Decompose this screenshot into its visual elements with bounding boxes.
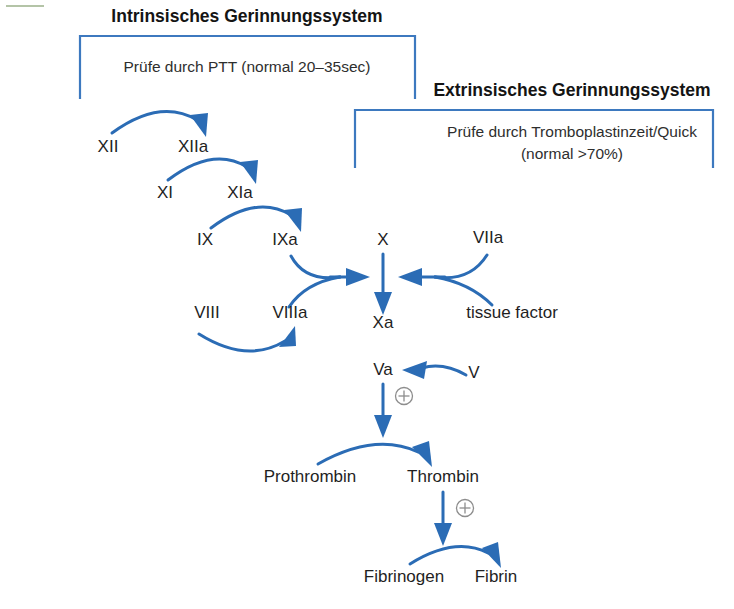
node-label-f9a: IXa — [272, 230, 298, 249]
arrow-fibrinogen-to-fibrin — [410, 542, 501, 568]
plus-modifier-thrombin — [457, 500, 474, 517]
node-label-f12: XII — [98, 137, 119, 156]
node-label-f5a: Va — [373, 360, 393, 379]
arrow-v-to-va — [402, 361, 466, 379]
arrow-x-to-xa — [374, 254, 392, 315]
node-label-f10: X — [377, 230, 388, 249]
node-label-fibrin: Fibrin — [475, 567, 518, 586]
section-subtitle-intrinsic: Prüfe durch PTT (normal 20–35sec) — [124, 58, 371, 75]
node-label-f8: VIII — [194, 303, 220, 322]
section-subtitle-extrinsic-line1: Prüfe durch Tromboplastinzeit/Quick — [447, 123, 697, 140]
node-label-f10a: Xa — [373, 313, 394, 332]
node-label-f8a: VIIIa — [273, 303, 309, 322]
arrow-prothrombin-to-thrombin — [318, 441, 432, 467]
arrow-ixa-viiia-to-x — [289, 256, 370, 307]
node-label-f11a: XIa — [227, 183, 253, 202]
coagulation-cascade-diagram: Intrinsisches Gerinnungssystem Prüfe dur… — [0, 0, 734, 609]
arrow-va-down — [374, 384, 392, 438]
node-label-f11: XI — [157, 183, 173, 202]
node-label-thrombin: Thrombin — [407, 467, 479, 486]
arrow-viii-to-viiia — [199, 326, 296, 351]
arrow-viia-tissuefactor-to-x — [398, 255, 492, 305]
arrow-xi-to-xia — [168, 159, 258, 184]
section-title-extrinsic: Extrinsisches Gerinnungssystem — [433, 80, 710, 100]
node-label-f9: IX — [197, 230, 213, 249]
plus-modifier-va — [396, 388, 413, 405]
node-label-f5: V — [468, 363, 480, 382]
section-title-intrinsic: Intrinsisches Gerinnungssystem — [111, 6, 382, 26]
node-label-f12a: XIIa — [178, 137, 209, 156]
arrow-ix-to-ixa — [211, 207, 302, 232]
node-label-f7a: VIIa — [473, 228, 504, 247]
node-label-tissue-factor: tissue factor — [466, 303, 558, 322]
node-label-prothrombin: Prothrombin — [264, 467, 357, 486]
arrow-xii-to-xiia — [112, 112, 208, 137]
diagram-canvas: Intrinsisches Gerinnungssystem Prüfe dur… — [0, 0, 734, 609]
section-subtitle-extrinsic-line2: (normal >70%) — [521, 145, 623, 162]
node-label-fibrinogen: Fibrinogen — [364, 567, 444, 586]
arrow-thrombin-down — [434, 492, 452, 546]
